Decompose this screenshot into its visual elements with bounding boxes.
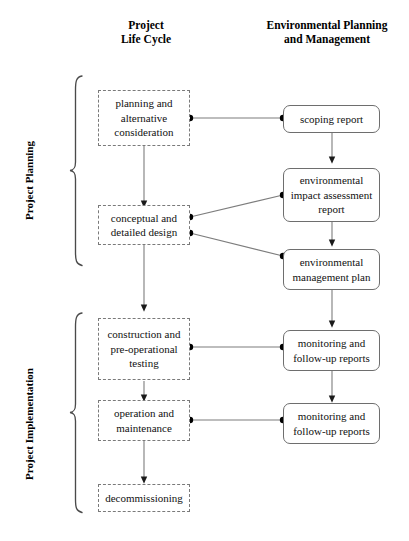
node-conceptual-and-detailed-design[interactable]: conceptual anddetailed design <box>98 205 190 245</box>
node-decommissioning-label: decommissioning <box>102 491 186 506</box>
node-decommissioning[interactable]: decommissioning <box>98 484 190 512</box>
node-environmental-impact-assessment-report[interactable]: environmentalimpact assessmentreport <box>283 168 380 222</box>
brace-project-planning <box>70 76 82 266</box>
flowchart-diagram: Project Life Cycle Environmental Plannin… <box>0 0 409 541</box>
node-monitoring-and-follow-up-reports-2[interactable]: monitoring andfollow-up reports <box>283 403 380 444</box>
node-monitoring-and-follow-up-reports-1[interactable]: monitoring andfollow-up reports <box>283 330 380 371</box>
node-planning-and-alternative-consideration-label: planning andalternativeconsideration <box>111 96 176 140</box>
node-scoping-report-label: scoping report <box>297 112 366 127</box>
node-construction-and-pre-operational-testing-label: construction andpre-operationaltesting <box>104 327 183 371</box>
node-operation-and-maintenance[interactable]: operation andmaintenance <box>98 400 190 441</box>
node-environmental-management-plan[interactable]: environmentalmanagement plan <box>283 249 380 290</box>
node-monitoring-and-follow-up-reports-2-label: monitoring andfollow-up reports <box>290 409 373 438</box>
node-conceptual-and-detailed-design-label: conceptual anddetailed design <box>108 211 180 240</box>
node-operation-and-maintenance-label: operation andmaintenance <box>111 406 177 435</box>
node-planning-and-alternative-consideration[interactable]: planning andalternativeconsideration <box>98 90 190 146</box>
node-monitoring-and-follow-up-reports-1-label: monitoring andfollow-up reports <box>290 336 373 365</box>
link-conceptual-to-emp <box>190 233 283 256</box>
node-scoping-report[interactable]: scoping report <box>283 105 380 133</box>
brace-project-implementation <box>70 313 82 513</box>
link-conceptual-to-eia <box>190 195 283 217</box>
node-environmental-management-plan-label: environmentalmanagement plan <box>290 255 374 284</box>
node-construction-and-pre-operational-testing[interactable]: construction andpre-operationaltesting <box>98 318 190 380</box>
node-environmental-impact-assessment-report-label: environmentalimpact assessmentreport <box>288 173 376 217</box>
